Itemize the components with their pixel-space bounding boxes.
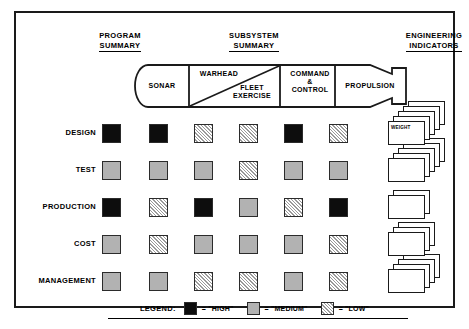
matrix-cell-test-command-control-medium[interactable]	[284, 161, 303, 180]
matrix-cell-production-sonar-low[interactable]	[149, 198, 168, 217]
matrix-cell-test-fleet-exercise-low[interactable]	[239, 161, 258, 180]
matrix-row-label-production: PRODUCTION	[18, 202, 96, 211]
diagram-frame: PROGRAM SUMMARY SUBSYSTEM SUMMARY ENGINE…	[14, 11, 455, 308]
indicator-card[interactable]	[388, 158, 425, 182]
summary-cell-production-high[interactable]	[102, 198, 121, 217]
matrix-row-label-design: DESIGN	[18, 128, 96, 137]
legend-divider	[108, 318, 408, 319]
matrix-cell-production-propulsion-high[interactable]	[329, 198, 348, 217]
matrix-cell-design-command-control-high[interactable]	[284, 124, 303, 143]
matrix-cell-test-sonar-medium[interactable]	[149, 161, 168, 180]
torpedo-segment-warhead: WARHEAD	[188, 70, 250, 78]
matrix-cell-cost-fleet-exercise-medium[interactable]	[239, 235, 258, 254]
matrix-cell-design-warhead-low[interactable]	[194, 124, 213, 143]
matrix-cell-management-warhead-low[interactable]	[194, 272, 213, 291]
column-header-subsystem-summary: SUBSYSTEM SUMMARY	[194, 31, 314, 52]
matrix-cell-management-sonar-medium[interactable]	[149, 272, 168, 291]
torpedo-segment-fleet-exercise: FLEET EXERCISE	[222, 84, 282, 100]
matrix-cell-test-propulsion-medium[interactable]	[329, 161, 348, 180]
matrix-row-label-cost: COST	[18, 239, 96, 248]
indicator-card[interactable]	[388, 232, 425, 256]
matrix-row-label-management: MANAGEMENT	[18, 276, 96, 285]
column-header-program-summary: PROGRAM SUMMARY	[72, 31, 168, 52]
summary-cell-cost-medium[interactable]	[102, 235, 121, 254]
indicator-card[interactable]	[388, 269, 425, 293]
matrix-cell-cost-warhead-medium[interactable]	[194, 235, 213, 254]
engineering-indicators-line1: ENGINEERING	[406, 31, 462, 40]
legend-title: LEGEND:	[140, 304, 176, 313]
matrix-cell-production-command-control-low[interactable]	[284, 198, 303, 217]
matrix-cell-production-fleet-exercise-medium[interactable]	[239, 198, 258, 217]
matrix-cell-design-sonar-high[interactable]	[149, 124, 168, 143]
matrix-row-label-test: TEST	[18, 165, 96, 174]
indicator-card[interactable]	[388, 195, 425, 219]
legend-swatch-medium	[247, 302, 260, 315]
torpedo-segment-propulsion: PROPULSION	[339, 82, 401, 90]
torpedo-segment-sonar: SONAR	[138, 82, 186, 90]
matrix-cell-design-fleet-exercise-low[interactable]	[239, 124, 258, 143]
summary-cell-management-medium[interactable]	[102, 272, 121, 291]
engineering-indicators-line2: INDICATORS	[409, 41, 458, 50]
torpedo-segment-command-control: COMMAND & CONTROL	[283, 70, 337, 94]
matrix-cell-cost-command-control-medium[interactable]	[284, 235, 303, 254]
program-summary-line1: PROGRAM	[99, 31, 141, 40]
matrix-cell-management-command-control-medium[interactable]	[284, 272, 303, 291]
subsystem-summary-line2: SUMMARY	[234, 41, 275, 50]
matrix-cell-management-fleet-exercise-low[interactable]	[239, 272, 258, 291]
legend-label-high: = "HIGH"	[202, 305, 234, 312]
matrix-cell-cost-sonar-low[interactable]	[149, 235, 168, 254]
legend-swatch-high	[184, 302, 197, 315]
torpedo-diagram: SONAR WARHEAD FLEET EXERCISE COMMAND & C…	[134, 64, 409, 108]
matrix-cell-cost-propulsion-low[interactable]	[329, 235, 348, 254]
matrix-cell-test-warhead-medium[interactable]	[194, 161, 213, 180]
matrix-cell-design-propulsion-low[interactable]	[329, 124, 348, 143]
program-summary-line2: SUMMARY	[100, 41, 141, 50]
summary-cell-design-high[interactable]	[102, 124, 121, 143]
legend: LEGEND: = "HIGH" = "MEDIUM" = "LOW"	[136, 300, 381, 317]
subsystem-summary-line1: SUBSYSTEM	[229, 31, 279, 40]
matrix-cell-production-warhead-high[interactable]	[194, 198, 213, 217]
legend-label-medium: = "MEDIUM"	[265, 305, 308, 312]
column-header-engineering-indicators: ENGINEERING INDICATORS	[388, 31, 469, 52]
summary-cell-test-medium[interactable]	[102, 161, 121, 180]
indicator-card-label: WEIGHT	[391, 125, 411, 130]
matrix-cell-management-propulsion-low[interactable]	[329, 272, 348, 291]
legend-label-low: = "LOW"	[339, 305, 369, 312]
legend-swatch-low	[321, 302, 334, 315]
